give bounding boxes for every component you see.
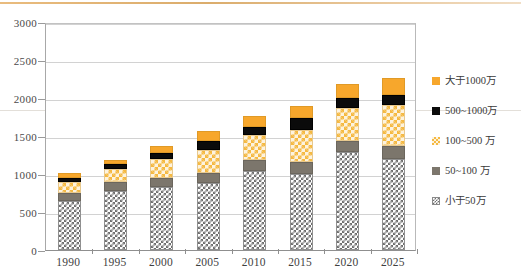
bar-segment [197,150,220,174]
bar-segment [290,118,313,130]
y-axis-tickmark [38,137,45,138]
bar-segment [336,98,359,108]
x-axis-tick-label: 2020 [335,256,359,268]
y-axis-tickmark [38,99,45,100]
legend-item: 大于1000万 [432,66,521,96]
x-axis-tick-label: 2005 [195,256,219,268]
gridline [46,176,415,177]
legend-swatch-icon [432,77,440,85]
bar-segment [336,152,359,250]
stacked-bar [150,146,173,250]
bar-segment [150,178,173,187]
plot-area [45,23,416,251]
x-axis-tick-label: 2015 [288,256,312,268]
legend-item-label: 500~1000万 [445,106,497,117]
y-axis-labels: 050010001500200025003000 [0,0,43,278]
bar-segment [150,187,173,250]
legend-swatch-icon [432,197,440,205]
stacked-bar [382,78,405,250]
bar-segment [150,146,173,153]
bar-segment [150,159,173,178]
y-axis-tick-label: 1000 [14,169,37,181]
bar-segment [197,131,220,141]
bar-segment [382,159,405,250]
x-axis-tickmark [92,249,93,254]
bar-segment [197,173,220,183]
y-axis-tickmark [38,213,45,214]
gridline [46,62,415,63]
gridline [46,138,415,139]
scan-artifact-top-line [0,2,521,4]
gridline [46,100,415,101]
x-axis-tickmark [139,249,140,254]
bar-segment [382,105,405,146]
bar-segment [243,135,266,159]
bar-segment [58,193,81,201]
bar-segment [290,106,313,117]
x-axis-tickmark [324,249,325,254]
stacked-bar [104,160,127,250]
x-axis-tickmark [278,249,279,254]
stacked-bar [58,173,81,250]
x-axis-tick-label: 2025 [381,256,405,268]
x-axis-tickmark [185,249,186,254]
stacked-bar [243,116,266,250]
legend-item-label: 50~100 万 [445,166,490,177]
legend-item-label: 大于1000万 [445,76,496,87]
bar-segment [58,201,81,250]
bar-segment [382,95,405,105]
bar-segment [104,182,127,190]
stacked-bar [197,131,220,250]
bar-segment [197,141,220,149]
bar-segment [290,130,313,162]
bar-segment [290,174,313,250]
x-axis-tick-label: 2000 [149,256,173,268]
legend-item-label: 小于50万 [445,196,486,207]
y-axis-tick-label: 0 [31,245,37,257]
bar-segment [336,108,359,141]
y-axis-tickmark [38,175,45,176]
legend-swatch-icon [432,167,440,175]
legend-swatch-icon [432,107,440,115]
y-axis-tick-label: 2500 [14,55,37,67]
x-axis-tick-label: 2010 [242,256,266,268]
bar-segment [243,127,266,135]
legend-item: 100~500 万 [432,126,521,156]
legend-item-label: 100~500 万 [445,136,495,147]
y-axis-tickmark [38,23,45,24]
bar-segment [382,78,405,95]
bar-segment [243,171,266,250]
gridline [46,24,415,25]
y-axis-tick-label: 3000 [14,17,37,29]
gridline [46,214,415,215]
chart-legend: 大于1000万500~1000万100~500 万50~100 万小于50万 [432,66,521,216]
bar-segment [243,116,266,127]
x-axis-tick-label: 1990 [56,256,80,268]
x-axis-tickmark [232,249,233,254]
x-axis-tickmark [371,249,372,254]
legend-item: 50~100 万 [432,156,521,186]
legend-swatch-icon [432,137,440,145]
bar-segment [58,182,81,193]
y-axis-tickmark [38,251,45,252]
x-axis-tick-label: 1995 [103,256,127,268]
y-axis-tick-label: 500 [20,207,37,219]
y-axis-tickmark [38,61,45,62]
bar-segment [104,169,127,182]
stacked-bar [336,84,359,250]
chart-screenshot: 050010001500200025003000 199019952000200… [0,0,521,278]
bar-segment [336,84,359,98]
legend-item: 小于50万 [432,186,521,216]
bar-segment [336,141,359,152]
x-axis-tickmark [417,249,418,254]
stacked-bar [290,106,313,250]
bar-segment [197,183,220,250]
bar-segment [382,146,405,159]
legend-item: 500~1000万 [432,96,521,126]
x-axis-labels: 19901995200020052010201520202025 [45,256,416,276]
bar-segment [290,162,313,174]
y-axis-tick-label: 2000 [14,93,37,105]
bar-segment [243,160,266,171]
bar-segment [104,191,127,250]
y-axis-tick-label: 1500 [14,131,37,143]
